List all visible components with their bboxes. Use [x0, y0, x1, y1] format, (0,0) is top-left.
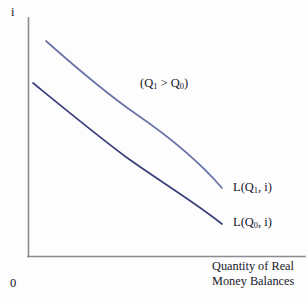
- annotation-close: ): [184, 76, 188, 90]
- annotation-open: (Q: [140, 76, 153, 90]
- curve0-label-suffix: , i): [258, 215, 272, 229]
- curve0-label-subscript: 0: [254, 220, 258, 230]
- annotation-subscript-1: 1: [153, 81, 157, 91]
- curve-L-Q0: [33, 83, 222, 224]
- curve1-label-suffix: , i): [258, 180, 272, 194]
- x-axis-label-line2: Money Balances: [212, 274, 294, 289]
- x-axis-label-line1: Quantity of Real: [212, 259, 294, 273]
- annotation-subscript-0: 0: [180, 81, 184, 91]
- annotation-operator: > Q: [157, 76, 179, 90]
- curve1-label-prefix: L(Q: [233, 180, 254, 194]
- origin-label: 0: [10, 276, 16, 291]
- curve-label-L-Q1: L(Q1, i): [233, 180, 272, 195]
- chart-canvas: [0, 0, 308, 302]
- money-demand-chart: i 0 (Q1 > Q0) L(Q1, i) L(Q0, i) Quantity…: [0, 0, 308, 302]
- curve1-label-subscript: 1: [254, 185, 258, 195]
- curve-label-L-Q0: L(Q0, i): [233, 215, 272, 230]
- x-axis-label: Quantity of RealMoney Balances: [212, 259, 294, 288]
- curve0-label-prefix: L(Q: [233, 215, 254, 229]
- annotation-q1-greater-q0: (Q1 > Q0): [140, 76, 188, 91]
- y-axis-label: i: [11, 5, 14, 20]
